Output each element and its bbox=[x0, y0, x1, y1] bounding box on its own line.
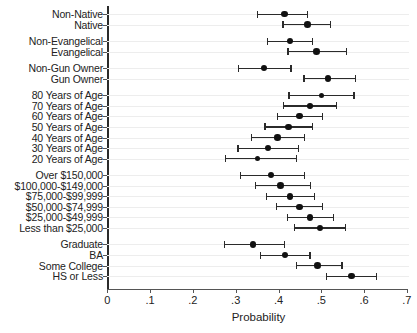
gridline bbox=[105, 95, 409, 96]
plot-area bbox=[107, 6, 407, 289]
y-axis-tick bbox=[103, 255, 107, 256]
y-axis-tick bbox=[103, 159, 107, 160]
x-axis-tick-label: .1 bbox=[146, 294, 155, 306]
ci-cap-upper bbox=[322, 113, 323, 120]
x-axis-line bbox=[107, 289, 407, 290]
ci-cap-lower bbox=[326, 273, 327, 280]
x-axis-tick-label: 0 bbox=[104, 294, 110, 306]
ci-cap-upper bbox=[330, 21, 331, 28]
ci-cap-lower bbox=[255, 182, 256, 189]
point-estimate-marker bbox=[304, 21, 311, 28]
x-axis-tick-label: .3 bbox=[231, 294, 240, 306]
ci-cap-lower bbox=[287, 48, 288, 55]
ci-cap-upper bbox=[290, 65, 291, 72]
y-axis-tick bbox=[103, 207, 107, 208]
x-axis-tick-label: .5 bbox=[317, 294, 326, 306]
gridline bbox=[105, 41, 409, 42]
y-axis-tick bbox=[103, 217, 107, 218]
point-estimate-marker bbox=[255, 156, 260, 161]
gridline bbox=[105, 116, 409, 117]
ci-cap-upper bbox=[296, 155, 297, 162]
ci-cap-upper bbox=[355, 75, 356, 82]
ci-cap-lower bbox=[237, 145, 238, 152]
ci-cap-upper bbox=[376, 273, 377, 280]
ci-cap-lower bbox=[225, 155, 226, 162]
gridline bbox=[105, 255, 409, 256]
y-axis-label: Native bbox=[74, 19, 103, 30]
x-axis-tick bbox=[364, 289, 365, 293]
y-axis-label: 20 Years of Age bbox=[32, 153, 103, 164]
y-axis-tick bbox=[103, 228, 107, 229]
gridline bbox=[105, 127, 409, 128]
ci-cap-upper bbox=[336, 102, 337, 109]
coefficient-plot: Non-NativeNativeNon-EvangelicalEvangelic… bbox=[0, 0, 417, 333]
y-axis-tick bbox=[103, 244, 107, 245]
x-axis-tick bbox=[407, 289, 408, 293]
y-axis-tick bbox=[103, 79, 107, 80]
y-axis-labels: Non-NativeNativeNon-EvangelicalEvangelic… bbox=[0, 6, 103, 289]
x-axis-tick-label: .2 bbox=[188, 294, 197, 306]
point-estimate-marker bbox=[287, 38, 294, 45]
y-axis-label: Evangelical bbox=[51, 46, 103, 57]
point-estimate-marker bbox=[285, 124, 292, 131]
ci-cap-upper bbox=[309, 252, 310, 259]
ci-cap-lower bbox=[296, 262, 297, 269]
ci-cap-upper bbox=[341, 262, 342, 269]
ci-cap-upper bbox=[314, 193, 315, 200]
gridline bbox=[105, 207, 409, 208]
point-estimate-marker bbox=[348, 273, 355, 280]
x-axis-tick bbox=[236, 289, 237, 293]
ci-cap-upper bbox=[345, 224, 346, 231]
x-axis-tick bbox=[150, 289, 151, 293]
ci-cap-lower bbox=[257, 11, 258, 18]
ci-cap-lower bbox=[238, 65, 239, 72]
x-axis-tick-label: .4 bbox=[274, 294, 283, 306]
point-estimate-marker bbox=[317, 225, 324, 232]
y-axis-tick bbox=[103, 186, 107, 187]
y-axis-label: Less than $25,000 bbox=[19, 222, 103, 233]
point-estimate-marker bbox=[261, 65, 268, 72]
ci-cap-upper bbox=[312, 38, 313, 45]
ci-cap-upper bbox=[346, 48, 347, 55]
ci-cap-upper bbox=[298, 145, 299, 152]
point-estimate-marker bbox=[274, 134, 280, 140]
y-axis-tick bbox=[103, 196, 107, 197]
gridline bbox=[105, 52, 409, 53]
y-axis-tick bbox=[103, 68, 107, 69]
point-estimate-marker bbox=[282, 252, 289, 259]
ci-cap-lower bbox=[282, 21, 283, 28]
point-estimate-marker bbox=[296, 204, 303, 211]
gridline bbox=[105, 79, 409, 80]
point-estimate-marker bbox=[319, 93, 324, 98]
gridline bbox=[105, 217, 409, 218]
ci-cap-upper bbox=[312, 123, 313, 130]
point-estimate-marker bbox=[313, 48, 320, 55]
point-estimate-marker bbox=[277, 182, 284, 189]
x-axis-tick bbox=[321, 289, 322, 293]
x-axis-title-text: Probability bbox=[232, 311, 286, 323]
y-axis-tick bbox=[103, 41, 107, 42]
confidence-interval-line bbox=[225, 158, 296, 159]
gridline bbox=[105, 106, 409, 107]
ci-cap-lower bbox=[251, 134, 252, 141]
point-estimate-marker bbox=[307, 214, 314, 221]
x-axis-title: Probability bbox=[0, 311, 417, 323]
y-axis-tick bbox=[103, 52, 107, 53]
y-axis-tick bbox=[103, 266, 107, 267]
ci-cap-lower bbox=[283, 102, 284, 109]
y-axis-tick bbox=[103, 276, 107, 277]
y-axis-tick bbox=[103, 95, 107, 96]
ci-cap-lower bbox=[267, 38, 268, 45]
ci-cap-upper bbox=[304, 134, 305, 141]
gridline bbox=[105, 228, 409, 229]
y-axis-tick bbox=[103, 175, 107, 176]
ci-cap-upper bbox=[304, 172, 305, 179]
gridline bbox=[105, 266, 409, 267]
ci-cap-upper bbox=[353, 92, 354, 99]
ci-cap-lower bbox=[294, 224, 295, 231]
x-axis-tick-label: .6 bbox=[360, 294, 369, 306]
y-axis-tick bbox=[103, 148, 107, 149]
y-axis-tick bbox=[103, 127, 107, 128]
ci-cap-lower bbox=[287, 214, 288, 221]
gridline bbox=[105, 196, 409, 197]
